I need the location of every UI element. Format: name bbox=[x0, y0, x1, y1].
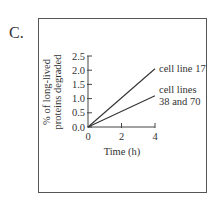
y-tick-label: 0.5 bbox=[72, 107, 85, 118]
series-line bbox=[88, 69, 155, 127]
y-tick-label: 1.5 bbox=[72, 79, 85, 90]
x-axis-label: Time (h) bbox=[104, 146, 141, 158]
y-tick-label: 0.0 bbox=[72, 122, 85, 133]
y-axis: 0.00.51.01.52.02.5 bbox=[72, 51, 92, 133]
line-chart: 0.00.51.01.52.02.5 024 % of long-lived p… bbox=[0, 0, 218, 204]
x-tick-label: 2 bbox=[119, 131, 124, 142]
y-axis-label: % of long-lived bbox=[41, 58, 52, 125]
y-axis-label-line2: proteins degraded bbox=[52, 54, 63, 130]
series-label-cell-line-17: cell line 17 bbox=[159, 63, 206, 74]
x-axis: 024 bbox=[85, 123, 158, 142]
series-lines bbox=[88, 69, 155, 127]
series-label-cell-lines-38-70: cell lines bbox=[159, 84, 197, 95]
x-tick-label: 4 bbox=[152, 131, 158, 142]
y-tick-label: 2.0 bbox=[72, 65, 85, 76]
y-tick-label: 1.0 bbox=[72, 93, 85, 104]
series-label-cell-lines-38-70-line2: 38 and 70 bbox=[159, 96, 200, 107]
x-tick-label: 0 bbox=[85, 131, 90, 142]
series-line bbox=[88, 96, 155, 127]
y-tick-label: 2.5 bbox=[72, 51, 85, 62]
